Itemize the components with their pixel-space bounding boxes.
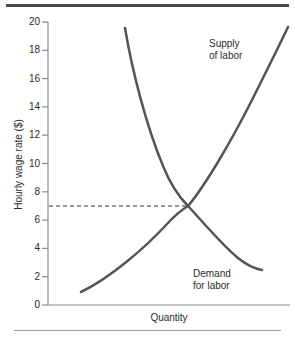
- demand-curve-label-line2: for labor: [193, 280, 231, 292]
- y-tick-label-16: 16: [18, 74, 40, 84]
- supply-curve-label-line1: Supply: [209, 38, 242, 50]
- chart-plot-area: [0, 0, 295, 338]
- demand-curve-label: Demand for labor: [193, 268, 231, 292]
- demand-curve: [125, 28, 262, 270]
- supply-curve-label: Supply of labor: [209, 38, 242, 62]
- y-tick-label-0: 0: [18, 300, 40, 310]
- y-axis-title: Hourly wage rate ($): [13, 100, 24, 230]
- x-axis-title: Quantity: [48, 312, 290, 323]
- y-tick-label-2: 2: [18, 272, 40, 282]
- supply-curve-label-line2: of labor: [209, 50, 242, 62]
- demand-curve-label-line1: Demand: [193, 268, 231, 280]
- figure-container: 20 18 16 14 12 10 8 6 4 2 0 Hourly wage …: [0, 0, 295, 338]
- y-axis-ticks: [42, 22, 48, 305]
- y-tick-label-18: 18: [18, 45, 40, 55]
- supply-curve: [81, 27, 288, 292]
- bottom-rule-divider: [14, 330, 281, 331]
- y-tick-label-20: 20: [18, 17, 40, 27]
- y-tick-label-4: 4: [18, 243, 40, 253]
